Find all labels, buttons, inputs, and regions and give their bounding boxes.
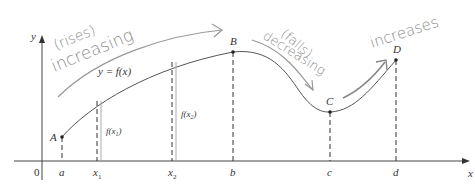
tick-label-x2: x2 (167, 166, 177, 181)
tick-label-a: a (59, 166, 65, 178)
height-label-x1: f(x1) (106, 126, 122, 137)
tick-label-b: b (230, 166, 236, 178)
tick-label-d: d (393, 166, 399, 178)
point-label-A: A (49, 131, 57, 143)
y-axis-label: y (30, 30, 36, 42)
x-axis-label: x (467, 167, 473, 179)
x-axis-arrow-icon (462, 158, 470, 164)
height-label-x2: f(x2) (181, 109, 197, 120)
point-label-C: C (326, 95, 334, 107)
point-label-B: B (230, 35, 237, 47)
curve-label: y = f(x) (97, 65, 131, 78)
point-D (394, 58, 398, 62)
point-C (328, 110, 332, 114)
point-B (231, 50, 235, 54)
tick-label-c: c (327, 166, 332, 178)
point-A (60, 135, 64, 139)
origin-label: 0 (34, 166, 40, 178)
function-graph: x y 0 a x1 x2 b c d A B C D y = f(x) f(x… (0, 0, 475, 187)
annotation-increases: increases (368, 13, 441, 52)
y-axis-arrow-icon (39, 35, 45, 43)
increases-arrowhead-icon (376, 60, 387, 70)
tick-label-x1: x1 (92, 166, 102, 181)
